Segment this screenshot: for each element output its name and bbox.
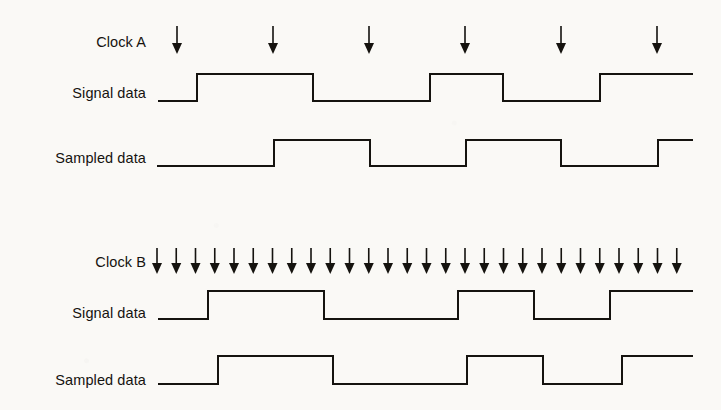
clock-b-arrow-train bbox=[0, 0, 721, 410]
timing-diagram-figure: Clock A Signal data Sampled data Clock B… bbox=[0, 0, 721, 410]
